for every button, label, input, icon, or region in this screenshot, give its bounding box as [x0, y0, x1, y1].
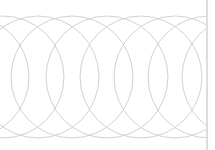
circle-outline [0, 16, 29, 138]
circle-pattern-graphic [0, 0, 215, 150]
circle-outline [0, 16, 64, 138]
overlapping-circles [0, 16, 215, 138]
circle-outline [80, 16, 202, 138]
circle-outline [0, 16, 99, 138]
circle-outline [182, 16, 215, 138]
